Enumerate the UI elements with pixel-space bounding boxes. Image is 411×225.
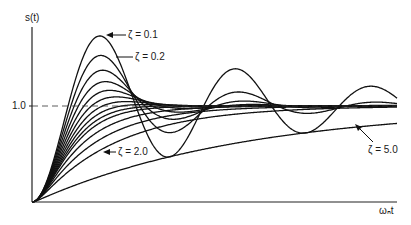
x-axis-label: ωₙt bbox=[379, 205, 394, 216]
annotation-zeta-2-0: ζ = 2.0 bbox=[118, 146, 148, 157]
curve-zeta-1-5 bbox=[32, 106, 397, 202]
curve-zeta-1-2 bbox=[32, 106, 397, 202]
curve-zeta-0-6 bbox=[32, 97, 397, 202]
arrow-zeta-2-0 bbox=[103, 149, 116, 155]
curve-zeta-0-9 bbox=[32, 106, 397, 202]
annotation-zeta-5-0: ζ = 5.0 bbox=[368, 144, 398, 155]
curve-zeta-5 bbox=[32, 123, 397, 202]
curve-zeta-0-3 bbox=[32, 70, 397, 202]
step-response-chart bbox=[0, 0, 411, 225]
curve-zeta-2 bbox=[32, 107, 397, 202]
response-curves bbox=[32, 36, 397, 202]
curve-zeta-0-8 bbox=[32, 105, 397, 202]
curve-zeta-0-1 bbox=[32, 36, 397, 202]
arrow-zeta-0-1 bbox=[106, 32, 126, 38]
annotation-zeta-0-1: ζ = 0.1 bbox=[128, 29, 158, 40]
y-axis-label: s(t) bbox=[25, 12, 39, 23]
annotation-zeta-0-2: ζ = 0.2 bbox=[135, 51, 165, 62]
y-tick-label-1: 1.0 bbox=[12, 100, 26, 111]
curve-zeta-1 bbox=[32, 106, 397, 202]
curve-zeta-0-4 bbox=[32, 82, 397, 202]
